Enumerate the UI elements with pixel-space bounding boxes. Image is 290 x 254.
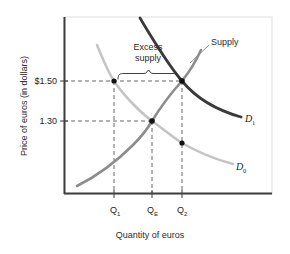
x-tick-label-qe-sub: E <box>154 211 158 217</box>
figure-container: Excess supply Supply D 1 D 0 $1.50 1.30 … <box>0 0 290 254</box>
excess-supply-label-line2: supply <box>135 53 162 63</box>
demand1-curve-label-sub: 1 <box>252 119 255 126</box>
y-tick-label-130: 1.30 <box>39 116 57 126</box>
point-q2-at-150 <box>179 78 185 84</box>
supply-demand-chart: Excess supply Supply D 1 D 0 $1.50 1.30 … <box>0 0 290 254</box>
y-tick-label-150: $1.50 <box>34 76 57 86</box>
x-tick-label-qe: Q <box>147 205 154 215</box>
point-q1-at-150 <box>111 78 116 83</box>
point-demand0-at-q2 <box>179 140 184 145</box>
point-equilibrium <box>149 118 155 124</box>
x-axis-title: Quantity of euros <box>116 230 185 240</box>
y-axis-title: Price of euros (in dollars) <box>19 56 29 156</box>
excess-supply-label-line1: Excess <box>133 42 163 52</box>
x-tick-label-q1: Q <box>110 205 117 215</box>
demand0-curve-label-sub: 0 <box>243 167 246 174</box>
x-tick-label-q2: Q <box>177 205 184 215</box>
supply-curve-label: Supply <box>211 37 239 47</box>
